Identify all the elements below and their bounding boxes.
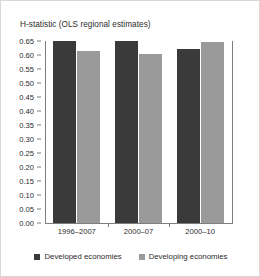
legend-label: Developing economies: [149, 252, 228, 261]
bars-layer: [46, 41, 231, 223]
y-axis-tick-mark: [37, 139, 41, 140]
bar-developed: [115, 41, 138, 223]
y-axis-tick-label: 0.45: [19, 93, 34, 102]
x-axis: 1996–20072000–072000–10: [46, 227, 231, 241]
y-axis: 0.000.050.100.150.200.250.300.350.400.45…: [1, 41, 41, 223]
bar-developing: [201, 42, 224, 223]
legend-swatch-icon: [139, 254, 145, 260]
x-axis-tick-label: 1996–2007: [58, 227, 96, 236]
legend-label: Developed economies: [44, 252, 121, 261]
bar-group: [46, 41, 108, 223]
y-axis-tick-mark: [37, 181, 41, 182]
y-axis-tick-mark: [37, 125, 41, 126]
y-axis-tick-label: 0.35: [19, 121, 34, 130]
y-axis-tick-label: 0.40: [19, 107, 34, 116]
y-axis-tick-label: 0.50: [19, 79, 34, 88]
chart-legend: Developed economiesDeveloping economies: [1, 252, 260, 261]
y-axis-tick-mark: [37, 111, 41, 112]
y-axis-tick-label: 0.05: [19, 205, 34, 214]
y-axis-tick-label: 0.55: [19, 65, 34, 74]
y-axis-tick-label: 0.15: [19, 177, 34, 186]
y-axis-tick-mark: [37, 69, 41, 70]
x-axis-tick-label: 2000–10: [185, 227, 215, 236]
y-axis-tick-label: 0.60: [19, 51, 34, 60]
x-axis-tick-label: 2000–07: [124, 227, 154, 236]
y-axis-tick-mark: [37, 83, 41, 84]
y-axis-tick-label: 0.30: [19, 135, 34, 144]
legend-item[interactable]: Developing economies: [139, 252, 228, 261]
bar-group: [169, 41, 231, 223]
legend-swatch-icon: [34, 254, 40, 260]
bar-group: [108, 41, 170, 223]
y-axis-tick-mark: [37, 97, 41, 98]
y-axis-tick-label: 0.10: [19, 191, 34, 200]
y-axis-tick-label: 0.65: [19, 37, 34, 46]
y-axis-tick-mark: [37, 167, 41, 168]
y-axis-tick-label: 0.25: [19, 149, 34, 158]
y-axis-tick-label: 0.20: [19, 163, 34, 172]
y-axis-tick-mark: [37, 55, 41, 56]
chart-title: H-statistic (OLS regional estimates): [20, 20, 151, 29]
chart-figure: H-statistic (OLS regional estimates) 0.0…: [0, 0, 260, 277]
x-axis-tick-mark: [169, 223, 170, 227]
legend-item[interactable]: Developed economies: [34, 252, 121, 261]
bar-developing: [139, 54, 162, 223]
y-axis-tick-mark: [37, 195, 41, 196]
y-axis-tick-label: 0.00: [19, 219, 34, 228]
bar-developed: [53, 41, 76, 223]
bar-developed: [177, 49, 200, 223]
y-axis-tick-mark: [37, 209, 41, 210]
y-axis-tick-mark: [37, 41, 41, 42]
bar-developing: [77, 51, 100, 223]
y-axis-tick-mark: [37, 223, 41, 224]
y-axis-tick-mark: [37, 153, 41, 154]
x-axis-tick-mark: [108, 223, 109, 227]
